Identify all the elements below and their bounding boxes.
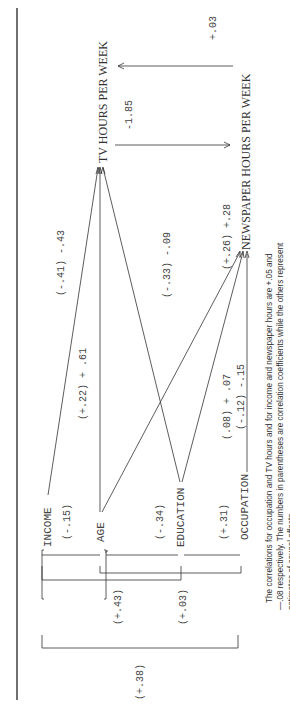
corr-income-occupation: (+.38) [135,664,146,700]
coef-education-newspaper: (.08) + .07 [222,374,233,440]
coef-age-newspaper: (+.26) +.28 [222,204,233,270]
coef-education-tv: (-.33) -.09 [162,232,173,298]
coef-income-tv: (-.41) -.43 [56,230,67,296]
label-income: INCOME [42,507,54,547]
caption-line-1: The correlations for occupation and TV h… [265,253,274,603]
path-analysis-diagram: INCOME AGE EDUCATION OCCUPATION TV HOURS… [0,0,290,720]
correlation-brackets [42,550,241,648]
path-education-tv [103,168,180,482]
label-occupation: OCCUPATION [239,474,251,540]
caption-line-3: estimates of causal effects. [287,511,290,610]
corr-education-occupation: (+.31) [219,504,230,540]
coef-age-tv: (+.22) + .61 [78,348,89,420]
path-income-tv [48,168,98,495]
coef-newspaper-to-tv: +.03 [208,16,219,40]
label-age: AGE [95,522,107,542]
label-tv-hours: TV HOURS PER WEEK [96,41,110,163]
corr-income-education: (+.43) [113,589,124,625]
caption-line-2: —.08 respectively. The numbers in parent… [276,242,285,610]
corr-age-occupation: (+.03) [178,589,189,625]
label-education: EDUCATION [175,488,187,547]
label-newspaper-hours: NEWSPAPER HOURS PER WEEK [239,73,253,250]
coef-occupation-newspaper: (-.12) -.15 [236,364,247,430]
coef-tv-to-newspaper: -1.85 [124,100,135,130]
corr-age-education: (-.34) [155,504,166,540]
path-education-newspaper [182,252,243,482]
corr-income-age: (-.15) [62,504,73,540]
